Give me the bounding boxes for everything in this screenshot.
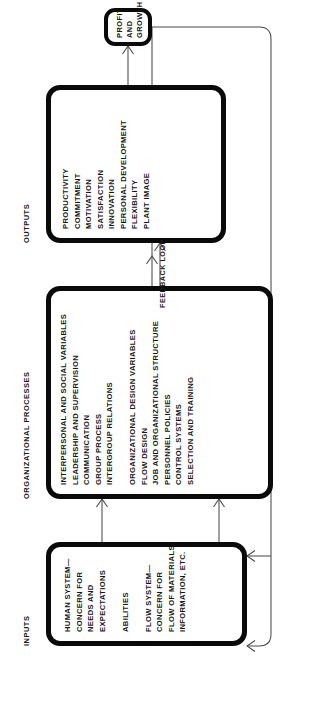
list-item: LEADERSHIP AND SUPERVISION [70, 295, 82, 485]
list-item: PRODUCTIVITY [60, 93, 72, 229]
list-item: PERSONNEL POLICIES [162, 295, 174, 485]
diagram-canvas: INPUTS HUMAN SYSTEM— CONCERN FOR NEEDS A… [0, 0, 311, 706]
list-item: GROUP PROCESS [93, 295, 105, 485]
list-item: FLEXIBILITY [129, 93, 141, 229]
list-item: INTERGROUP RELATIONS [104, 295, 116, 485]
list-item: INTERPERSONAL AND SOCIAL VARIABLES [58, 295, 70, 485]
list-item: FLOW OF MATERIALS, [166, 548, 178, 632]
list-item: JOB AND ORGANIZATIONAL STRUCTURE [150, 295, 162, 485]
profit-line-1: PROFIT [115, 6, 125, 38]
list-item: CONTROL SYSTEMS [173, 295, 185, 485]
list-item: FLOW DESIGN [139, 295, 151, 485]
list-item: PERSONAL DEVELOPMENT [118, 93, 130, 229]
inputs-item-list: HUMAN SYSTEM— CONCERN FOR NEEDS AND EXPE… [62, 548, 189, 632]
list-item: CONCERN FOR [74, 548, 86, 632]
organizational-processes-item-list: INTERPERSONAL AND SOCIAL VARIABLES LEADE… [58, 295, 196, 485]
column-label-organizational-processes: ORGANIZATIONAL PROCESSES [22, 372, 31, 500]
list-item: MOTIVATION [83, 93, 95, 229]
list-item: EXPECTATIONS [97, 548, 109, 632]
list-item: COMMITMENT [72, 93, 84, 229]
list-item: PLANT IMAGE [141, 93, 153, 229]
list-item: SELECTION AND TRAINING [185, 295, 197, 485]
column-label-outputs: OUTPUTS [22, 204, 31, 243]
profit-and-growth-label: PROFIT AND GROWTH [115, 6, 145, 38]
list-item: FLOW SYSTEM— [143, 548, 155, 632]
list-item: ORGANIZATIONAL DESIGN VARIABLES [127, 295, 139, 485]
list-item: SATISFACTION [95, 93, 107, 229]
profit-line-3: GROWTH [135, 6, 145, 38]
profit-line-2: AND [125, 6, 135, 38]
list-item: INNOVATION [106, 93, 118, 229]
list-item: HUMAN SYSTEM— [62, 548, 74, 632]
list-item: COMMUNICATION [81, 295, 93, 485]
list-item: CONCERN FOR [154, 548, 166, 632]
outputs-item-list: PRODUCTIVITY COMMITMENT MOTIVATION SATIS… [60, 93, 152, 229]
feedback-loop-label: FEEDBACK LOOP [158, 239, 167, 308]
list-item: INFORMATION, ETC. [177, 548, 189, 632]
diagram-rotation-wrapper: INPUTS HUMAN SYSTEM— CONCERN FOR NEEDS A… [0, 0, 311, 706]
column-label-inputs: INPUTS [22, 616, 31, 646]
list-item: ABILITIES [120, 548, 132, 632]
list-item: NEEDS AND [85, 548, 97, 632]
